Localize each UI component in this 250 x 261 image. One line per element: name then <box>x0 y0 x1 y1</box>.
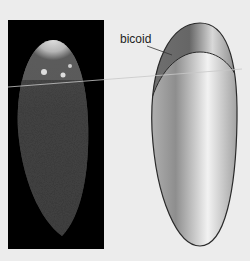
bicoid-label: bicoid <box>120 32 151 46</box>
schematic-embryo <box>148 20 240 250</box>
micrograph-panel <box>8 20 104 249</box>
